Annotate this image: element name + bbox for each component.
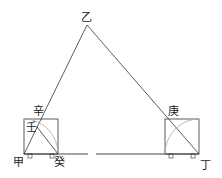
triangle-measurement-diagram	[0, 0, 222, 178]
right-arc	[165, 119, 199, 154]
label-left-box-intersect: 壬	[26, 122, 37, 133]
label-apex: 乙	[81, 12, 92, 23]
left-diagonal	[37, 127, 58, 154]
label-right-base: 丁	[200, 160, 211, 171]
side-right	[87, 25, 199, 154]
label-left-box-top: 辛	[33, 106, 44, 117]
left-foot-1	[28, 154, 32, 158]
label-left-base: 甲	[13, 157, 24, 168]
label-left-box-foot: 癸	[54, 157, 65, 168]
right-foot-1	[169, 154, 173, 158]
right-foot-2	[191, 154, 195, 158]
label-right-box-top: 庚	[168, 106, 179, 117]
right-square	[165, 119, 199, 154]
side-left	[24, 25, 87, 154]
